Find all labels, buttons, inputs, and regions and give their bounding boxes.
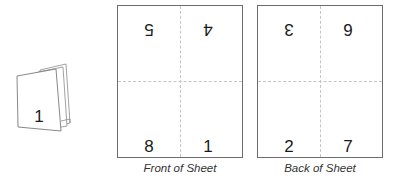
back-of-sheet-caption: Back of Sheet <box>257 162 383 174</box>
front-of-sheet: 5 4 8 1 <box>117 5 243 158</box>
page-number-top-right: 4 <box>198 20 218 38</box>
page-number-top-left: 5 <box>139 20 159 38</box>
back-of-sheet: 3 6 2 7 <box>257 5 383 158</box>
front-of-sheet-caption: Front of Sheet <box>117 162 243 174</box>
page-number-bottom-right: 1 <box>198 138 218 156</box>
cover-page-number: 1 <box>29 108 49 126</box>
page-number-bottom-right: 7 <box>338 138 358 156</box>
horizontal-fold-line <box>118 81 242 82</box>
page-number-top-right: 6 <box>338 20 358 38</box>
page-number-bottom-left: 8 <box>139 138 159 156</box>
page-number-top-left: 3 <box>279 20 299 38</box>
horizontal-fold-line <box>258 81 382 82</box>
booklet-icon <box>0 0 100 183</box>
folded-booklet-illustration: 1 <box>0 0 100 183</box>
page-number-bottom-left: 2 <box>279 138 299 156</box>
